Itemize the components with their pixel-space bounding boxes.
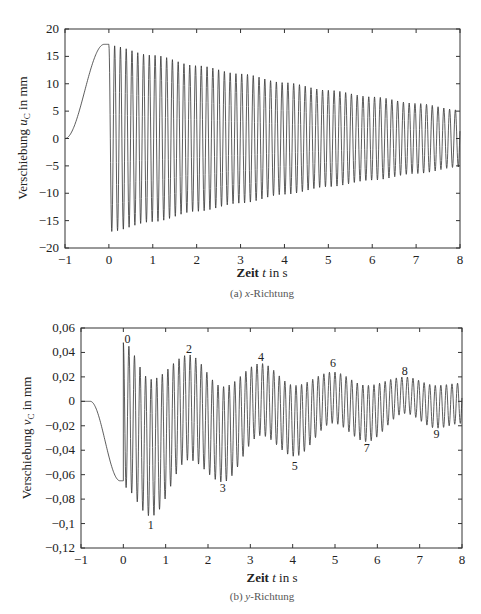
peak-label: 7 <box>364 441 370 455</box>
x-tick-label: 7 <box>413 252 420 267</box>
y-tick-label: −0,08 <box>45 491 75 506</box>
plot-frame <box>65 29 460 248</box>
y-tick-label: 20 <box>46 21 59 36</box>
y-tick-label: −0,06 <box>45 467 76 482</box>
x-tick-label: 8 <box>457 252 464 267</box>
x-tick-label: 5 <box>332 552 339 567</box>
peak-label: 0 <box>125 332 131 346</box>
x-axis-title: Zeit t in s <box>237 265 288 280</box>
x-tick-label: 1 <box>162 552 169 567</box>
x-tick-label: 5 <box>325 252 332 267</box>
x-tick-label: −1 <box>74 552 88 567</box>
x-tick-label: 6 <box>374 552 381 567</box>
x-tick-label: 8 <box>459 552 466 567</box>
y-axis-title: Verschiebung vC in mm <box>19 377 36 500</box>
figure: −1012345678 20151050−5−10−15−20 Zeit t i… <box>0 0 481 614</box>
y-tick-label: −0,04 <box>45 442 76 457</box>
x-tick-label: −1 <box>58 252 72 267</box>
y-tick-label: −0,1 <box>51 516 75 531</box>
x-axis-title: Zeit t in s <box>247 570 298 585</box>
chart-x-direction: −1012345678 20151050−5−10−15−20 Zeit t i… <box>15 21 463 300</box>
y-tick-labels: 0,060,040,020−0,02−0,04−0,06−0,08−0,1−0,… <box>45 320 76 555</box>
y-tick-label: −0,12 <box>45 540 75 555</box>
series-line-u-c <box>65 44 460 231</box>
x-tick-label: 7 <box>416 552 423 567</box>
peak-label: 1 <box>148 518 154 532</box>
y-tick-label: 0 <box>69 393 76 408</box>
x-tick-label: 6 <box>369 252 376 267</box>
peak-label: 2 <box>186 342 192 356</box>
y-tick-label: −10 <box>39 185 59 200</box>
peak-label: 3 <box>220 481 226 495</box>
y-tick-label: 0,06 <box>52 320 75 335</box>
y-tick-label: 0 <box>53 131 60 146</box>
y-axis-title: Verschiebung uC in mm <box>15 76 32 199</box>
x-tick-label: 2 <box>205 552 212 567</box>
chart-y-direction: −1012345678 0,060,040,020−0,02−0,04−0,06… <box>19 320 465 603</box>
peak-label: 5 <box>292 459 298 473</box>
x-tick-labels: −1012345678 <box>74 552 465 567</box>
x-tick-label: 0 <box>120 552 127 567</box>
peak-label: 8 <box>402 364 408 378</box>
axis-ticks <box>65 29 460 248</box>
x-tick-label: 0 <box>106 252 113 267</box>
figure-caption-a: (a) x-Richtung <box>230 287 294 300</box>
y-tick-label: −15 <box>39 213 59 228</box>
y-tick-label: 0,04 <box>52 344 75 359</box>
y-tick-label: 15 <box>46 48 59 63</box>
figure-caption-b: (b) y-Richtung <box>230 590 295 603</box>
y-tick-label: −0,02 <box>45 418 75 433</box>
peak-label: 9 <box>434 427 440 441</box>
peak-label: 6 <box>330 356 336 370</box>
x-tick-label: 4 <box>289 552 296 567</box>
x-tick-label: 2 <box>193 252 200 267</box>
y-tick-labels: 20151050−5−10−15−20 <box>39 21 59 255</box>
y-tick-label: −5 <box>45 158 59 173</box>
y-tick-label: 0,02 <box>52 369 75 384</box>
x-tick-label: 3 <box>247 552 254 567</box>
y-tick-label: −20 <box>39 240 59 255</box>
x-tick-label: 1 <box>150 252 157 267</box>
y-tick-label: 5 <box>53 103 60 118</box>
peak-label: 4 <box>258 350 264 364</box>
y-tick-label: 10 <box>46 76 59 91</box>
